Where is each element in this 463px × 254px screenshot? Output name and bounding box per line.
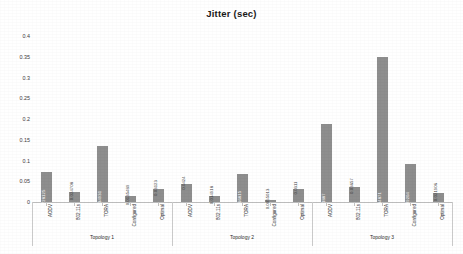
x-axis-category-label: AODV [48, 204, 53, 217]
bar-column: 0.021906 [433, 36, 444, 202]
bar-value-label: 0.0424 [181, 177, 186, 190]
bar: 0.066815 [237, 174, 248, 202]
bar-column: 0.0055013 [265, 36, 276, 202]
y-axis-tick-label: 0.4 [4, 33, 30, 39]
bar: 0.1887 [321, 124, 332, 202]
x-axis-tick [186, 202, 187, 206]
bar-value-label: 0.134931 [97, 191, 102, 209]
bar: 0.34871 [377, 57, 388, 202]
group-label: Topology 2 [230, 234, 254, 240]
x-axis-tick [214, 202, 215, 206]
x-axis-tick [158, 202, 159, 206]
bar-value-label: 0.066815 [237, 191, 242, 209]
bar: 0.03123 [153, 189, 164, 202]
x-axis-category-label: AODV [328, 204, 333, 217]
x-axis-category-label: Configured [412, 204, 417, 226]
y-axis-tick-label: 0.1 [4, 158, 30, 164]
x-axis-tick [102, 202, 103, 206]
bar-column: 0.0728125 [41, 36, 52, 202]
group-separator [32, 202, 33, 246]
group-label: Topology 1 [90, 234, 114, 240]
x-axis-category-label: TORA [244, 204, 249, 217]
bar-value-label: 0.0728125 [41, 190, 46, 211]
bar: 0.0728125 [41, 172, 52, 202]
x-axis-tick [74, 202, 75, 206]
bar: 0.024708 [69, 192, 80, 202]
x-axis-category-label: Optimal [440, 204, 445, 220]
y-axis-tick-label: 0.25 [4, 95, 30, 101]
y-axis-tick-label: 0 [4, 199, 30, 205]
bar-value-label: 0.024708 [69, 182, 74, 200]
x-axis-tick [130, 202, 131, 206]
x-axis-tick [242, 202, 243, 206]
x-axis-tick [382, 202, 383, 206]
x-axis-tick [326, 202, 327, 206]
y-axis-tick-label: 0.05 [4, 178, 30, 184]
bar-column: 0.1887 [321, 36, 332, 202]
x-axis-category-label: 802.11s [216, 204, 221, 220]
chart-title: Jitter (sec) [0, 8, 463, 19]
bar-column: 0.024708 [69, 36, 80, 202]
bar: 0.021906 [433, 193, 444, 202]
bar-value-label: 0.03657 [349, 178, 354, 194]
bar: 0.0424 [181, 184, 192, 202]
bar-column: 0.03657 [349, 36, 360, 202]
x-axis-category-label: Configured [132, 204, 137, 226]
bar-column: 0.0135489 [125, 36, 136, 202]
x-axis-category-label: Optimal [160, 204, 165, 220]
x-axis-tick [354, 202, 355, 206]
x-axis-tick [270, 202, 271, 206]
x-axis-tick [298, 202, 299, 206]
x-axis-category-label: 802.11s [76, 204, 81, 220]
group-separator [312, 202, 313, 246]
group-label: Topology 3 [370, 234, 394, 240]
x-axis-category-label: Optimal [300, 204, 305, 220]
x-axis-tick [410, 202, 411, 206]
bar: 0.134931 [97, 146, 108, 202]
bar-value-label: 0.03123 [153, 180, 158, 196]
x-axis-category-label: AODV [188, 204, 193, 217]
x-axis-category-label: Configured [272, 204, 277, 226]
bar-column: 0.03123 [153, 36, 164, 202]
x-axis-tick [438, 202, 439, 206]
bar-value-label: 0.0311 [293, 182, 298, 195]
bar-column: 0.066815 [237, 36, 248, 202]
x-axis-tick [46, 202, 47, 206]
y-axis-tick-label: 0.2 [4, 116, 30, 122]
x-axis-category-label: TORA [104, 204, 109, 217]
group-separator [452, 202, 453, 246]
bar-column: 0.014918 [209, 36, 220, 202]
plot-area: 0.07281250.0247080.1349310.01354890.0312… [32, 36, 452, 202]
bar-column: 0.09204 [405, 36, 416, 202]
y-axis-tick-label: 0.35 [4, 54, 30, 60]
bar: 0.0311 [293, 189, 304, 202]
y-axis-tick-label: 0.15 [4, 137, 30, 143]
bar-column: 0.0311 [293, 36, 304, 202]
bar-value-label: 0.021906 [433, 183, 438, 201]
y-axis: 00.050.10.150.20.250.30.350.4 [0, 36, 30, 202]
jitter-bar-chart: Jitter (sec) 00.050.10.150.20.250.30.350… [0, 0, 463, 254]
y-axis-tick-label: 0.3 [4, 75, 30, 81]
x-axis-category-label: TORA [384, 204, 389, 217]
group-separator [172, 202, 173, 246]
x-axis-category-label: 802.11s [356, 204, 361, 220]
bar-column: 0.134931 [97, 36, 108, 202]
bar-column: 0.34871 [377, 36, 388, 202]
bar: 0.09204 [405, 164, 416, 202]
bar: 0.03657 [349, 187, 360, 202]
bar-column: 0.0424 [181, 36, 192, 202]
